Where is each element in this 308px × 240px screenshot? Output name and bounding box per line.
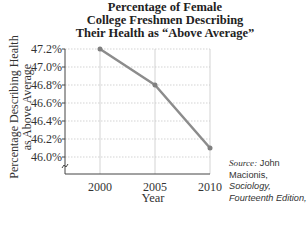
source-note: Source: John Macionis, Sociology, Fourte…: [229, 158, 308, 206]
source-label: Source:: [229, 158, 257, 168]
axes: [62, 49, 210, 174]
data-point-2010: [208, 146, 213, 151]
source-publisher: Pearson, 2012.: [229, 204, 291, 206]
data-point-2000: [98, 47, 103, 52]
source-book: Sociology, Fourteenth Edition,: [229, 181, 307, 203]
vertical-gridlines: [100, 49, 210, 174]
data-point-2005: [153, 83, 158, 88]
x-tick-label: 2000: [80, 180, 120, 195]
horizontal-gridlines: [65, 49, 210, 157]
x-axis-label: Year: [118, 191, 188, 206]
x-tick-label: 2010: [190, 180, 230, 195]
